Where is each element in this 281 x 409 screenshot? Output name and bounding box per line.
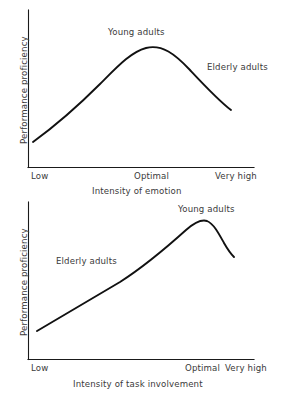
figure-task-involvement-performance: Performance proficiency Low Optimal Very… (0, 196, 281, 409)
curve-task-involvement-performance (37, 220, 234, 331)
x-tick-optimal-emotion: Optimal (134, 172, 169, 181)
plot-area-task-involvement (0, 196, 281, 409)
y-axis-title-task: Performance proficiency (20, 228, 29, 336)
annotation-elderly-adults-emotion: Elderly adults (207, 63, 268, 72)
x-tick-low-task: Low (31, 364, 48, 373)
annotation-young-adults-emotion: Young adults (108, 28, 165, 37)
x-axis-title-emotion: Intensity of emotion (92, 187, 182, 196)
x-tick-optimal-task: Optimal (185, 364, 220, 373)
x-tick-low-emotion: Low (31, 172, 48, 181)
annotation-young-adults-task: Young adults (178, 205, 235, 214)
curve-emotion-performance (33, 47, 231, 142)
x-tick-very-high-task: Very high (225, 364, 267, 373)
x-axis-title-task: Intensity of task involvement (73, 380, 203, 389)
figure-emotion-performance: Performance proficiency Low Optimal Very… (0, 0, 281, 200)
annotation-elderly-adults-task: Elderly adults (56, 257, 117, 266)
y-axis-title-emotion: Performance proficiency (20, 36, 29, 144)
x-tick-very-high-emotion: Very high (215, 172, 257, 181)
